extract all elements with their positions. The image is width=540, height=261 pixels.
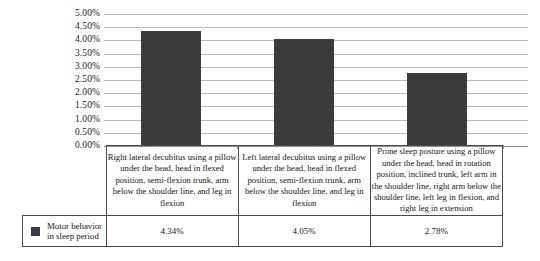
legend-label: Motor behavior in sleep period	[47, 221, 102, 242]
axis-tickmark	[503, 145, 504, 149]
series-value-row: Motor behavior in sleep period 4.34% 4.0…	[23, 216, 503, 247]
category-cell: Left lateral decubitus using a pillow un…	[238, 146, 370, 216]
bar	[141, 31, 201, 146]
bar	[274, 39, 334, 146]
grid-area	[104, 14, 528, 146]
bar-slot	[237, 14, 370, 146]
legend-label-line2: in sleep period	[47, 231, 99, 241]
data-table-wrapper: Right lateral decubitus using a pillow u…	[22, 145, 503, 247]
category-cell: Right lateral decubitus using a pillow u…	[106, 146, 238, 216]
y-axis-tick-label: 1.50%	[75, 102, 100, 112]
y-axis-tick-label: 5.00%	[75, 9, 100, 19]
y-axis-tick-label: 4.00%	[75, 36, 100, 46]
y-axis-tick-label: 1.00%	[75, 115, 100, 125]
y-axis-tick-label: 2.00%	[75, 88, 100, 98]
category-row: Right lateral decubitus using a pillow u…	[23, 146, 503, 216]
y-axis-tick-label: 2.50%	[75, 75, 100, 85]
bar-slot	[370, 14, 503, 146]
bar-slot	[104, 14, 237, 146]
legend-spacer-cell	[23, 146, 107, 216]
y-axis-tick-label: 4.50%	[75, 22, 100, 32]
data-table: Right lateral decubitus using a pillow u…	[22, 145, 503, 247]
legend-cell: Motor behavior in sleep period	[23, 216, 107, 247]
y-axis: 5.00%4.50%4.00%3.50%3.00%2.50%2.00%1.50%…	[52, 14, 100, 146]
bar	[407, 73, 467, 146]
legend-entry: Motor behavior in sleep period	[23, 216, 106, 246]
plot-area: 5.00%4.50%4.00%3.50%3.00%2.50%2.00%1.50%…	[0, 14, 540, 146]
legend-label-line1: Motor behavior	[47, 221, 102, 231]
value-cell: 4.34%	[106, 216, 238, 247]
value-cell: 4.05%	[238, 216, 370, 247]
value-cell: 2.78%	[370, 216, 502, 247]
y-axis-tick-label: 3.50%	[75, 49, 100, 59]
y-axis-tick-label: 3.00%	[75, 62, 100, 72]
bar-chart-figure: 5.00%4.50%4.00%3.50%3.00%2.50%2.00%1.50%…	[0, 0, 540, 261]
bars-layer	[104, 14, 528, 146]
legend-swatch-icon	[31, 227, 40, 236]
y-axis-tick-label: 0.50%	[75, 128, 100, 138]
category-cell: Prone sleep posture using a pillow under…	[370, 146, 502, 216]
